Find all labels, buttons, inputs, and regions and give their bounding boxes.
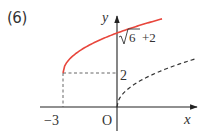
reference-curve-sqrt-x: [117, 58, 197, 107]
graph: y x O −3 2 6 +2: [0, 0, 210, 140]
tick-label-sqrt6-plus-2: 6 +2: [119, 29, 156, 45]
sqrt-suffix: +2: [142, 30, 156, 45]
tick-label-neg3: −3: [44, 113, 59, 128]
main-curve: [63, 19, 162, 73]
y-axis-label: y: [100, 10, 109, 25]
origin-label: O: [102, 113, 112, 128]
x-axis-label: x: [183, 111, 191, 127]
sqrt-radicand: 6: [129, 30, 136, 45]
tick-label-2: 2: [120, 68, 127, 83]
